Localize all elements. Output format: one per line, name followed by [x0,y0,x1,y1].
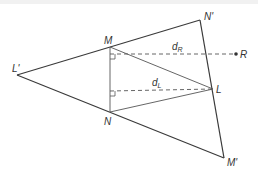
label-L-prime: L' [12,63,21,74]
label-N: N [104,116,112,127]
right-angle-markers [110,54,115,96]
right-angle-marker-bottom [110,91,115,96]
outer-triangle [17,20,224,158]
point-R [234,52,238,56]
label-N-prime: N' [204,11,214,22]
edge-M-L [110,47,213,89]
geometry-diagram: M N L L' N' M' R dR dL [0,0,258,180]
label-d-L-subscript: L [158,82,162,89]
label-M-prime: M' [227,157,238,168]
inner-triangle [110,47,213,112]
edge-Mprime-Lprime [17,75,224,158]
label-d-R-subscript: R [178,46,183,53]
right-angle-marker-top [110,54,115,59]
label-d-R: dR [172,41,183,53]
edge-N-L [110,89,213,112]
label-M: M [104,35,113,46]
label-d-L: dL [152,77,162,89]
label-L: L [216,84,222,95]
distance-line-dL [110,89,213,91]
label-R: R [240,49,247,60]
